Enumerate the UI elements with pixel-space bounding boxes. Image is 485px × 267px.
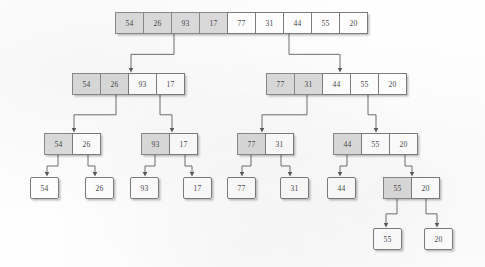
tree-edge [368, 95, 376, 130]
tree-edge [145, 155, 155, 174]
tree-node: 20 [424, 228, 453, 250]
array-cell: 55 [311, 12, 340, 34]
array-cell: 77 [237, 133, 266, 155]
tree-node: 54269317 [72, 73, 185, 95]
tree-node: 5426 [44, 133, 101, 155]
tree-node: 7731445520 [266, 73, 407, 95]
array-cell: 77 [227, 177, 256, 199]
array-cell: 44 [322, 73, 351, 95]
tree-edge [74, 95, 116, 130]
tree-node: 5520 [383, 177, 440, 199]
array-cell: 55 [373, 228, 402, 250]
tree-edge [386, 199, 397, 225]
array-cell: 55 [383, 177, 412, 199]
array-cell: 20 [339, 12, 368, 34]
array-cell: 44 [327, 177, 356, 199]
tree-node: 54 [30, 177, 59, 199]
array-cell: 26 [100, 73, 129, 95]
tree-edge [340, 155, 347, 174]
array-cell: 26 [72, 133, 101, 155]
array-cell: 93 [141, 133, 170, 155]
tree-node: 7731 [237, 133, 294, 155]
tree-edge [160, 95, 172, 130]
tree-node: 445520 [333, 133, 418, 155]
array-cell: 55 [350, 73, 379, 95]
tree-edge [405, 155, 412, 174]
tree-edge [242, 155, 251, 174]
array-cell: 93 [130, 177, 159, 199]
array-cell: 17 [156, 73, 185, 95]
array-cell: 93 [171, 12, 200, 34]
tree-edge [185, 155, 192, 174]
array-cell: 44 [333, 133, 362, 155]
tree-edge [262, 95, 307, 130]
tree-node: 542693177731445520 [115, 12, 368, 34]
merge-sort-diagram: 5426931777314455205426931777314455205426… [0, 0, 485, 267]
tree-edge [88, 155, 95, 174]
tree-edge [289, 34, 340, 70]
array-cell: 77 [266, 73, 295, 95]
array-cell: 31 [294, 73, 323, 95]
tree-node: 93 [130, 177, 159, 199]
tree-node: 31 [280, 177, 309, 199]
array-cell: 20 [389, 133, 418, 155]
array-cell: 77 [227, 12, 256, 34]
tree-edge [281, 155, 290, 174]
array-cell: 54 [44, 133, 73, 155]
array-cell: 31 [255, 12, 284, 34]
tree-edge [131, 34, 174, 70]
array-cell: 26 [143, 12, 172, 34]
array-cell: 44 [283, 12, 312, 34]
array-cell: 17 [183, 177, 212, 199]
array-cell: 20 [411, 177, 440, 199]
tree-node: 26 [85, 177, 114, 199]
array-cell: 54 [115, 12, 144, 34]
tree-node: 17 [183, 177, 212, 199]
tree-node: 77 [227, 177, 256, 199]
tree-edge [426, 199, 437, 225]
array-cell: 20 [378, 73, 407, 95]
array-cell: 93 [128, 73, 157, 95]
array-cell: 31 [280, 177, 309, 199]
tree-edge [47, 155, 58, 174]
tree-node: 44 [327, 177, 356, 199]
tree-node: 55 [373, 228, 402, 250]
array-cell: 17 [199, 12, 228, 34]
array-cell: 17 [169, 133, 198, 155]
array-cell: 26 [85, 177, 114, 199]
tree-node: 9317 [141, 133, 198, 155]
array-cell: 54 [30, 177, 59, 199]
array-cell: 54 [72, 73, 101, 95]
array-cell: 20 [424, 228, 453, 250]
array-cell: 31 [265, 133, 294, 155]
array-cell: 55 [361, 133, 390, 155]
